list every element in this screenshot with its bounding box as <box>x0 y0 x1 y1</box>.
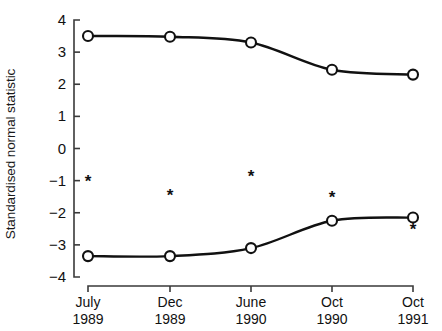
asterisk-annotation: * <box>167 186 174 205</box>
data-point-marker <box>165 251 175 261</box>
data-series-layer <box>83 31 418 261</box>
x-tick-label: Oct1991 <box>373 294 442 328</box>
x-tick-month: Oct <box>292 294 372 311</box>
x-tick-year: 1991 <box>373 311 442 328</box>
x-tick-label: July1989 <box>48 294 128 328</box>
y-tick-label: −4 <box>40 269 66 284</box>
x-tick-year: 1989 <box>130 311 210 328</box>
x-tick-year: 1989 <box>48 311 128 328</box>
data-point-marker <box>327 65 337 75</box>
x-tick-year: 1990 <box>292 311 372 328</box>
annotation-layer: ***** <box>85 167 417 239</box>
data-point-marker <box>165 32 175 42</box>
x-tick-month: Dec <box>130 294 210 311</box>
x-tick-label: June1990 <box>211 294 291 328</box>
x-tick-month: June <box>211 294 291 311</box>
y-tick-label: −2 <box>40 205 66 220</box>
asterisk-annotation: * <box>329 188 336 207</box>
x-tick-year: 1990 <box>211 311 291 328</box>
y-tick-label: −1 <box>40 173 66 188</box>
data-point-marker <box>246 37 256 47</box>
x-tick-month: Oct <box>373 294 442 311</box>
x-tick-month: July <box>48 294 128 311</box>
y-tick-label: −3 <box>40 237 66 252</box>
x-tick-label: Dec1989 <box>130 294 210 328</box>
y-tick-label: 2 <box>40 76 66 91</box>
axis-lines <box>74 20 413 292</box>
data-point-marker <box>408 70 418 80</box>
data-point-marker <box>327 216 337 226</box>
data-point-marker <box>83 251 93 261</box>
y-tick-label: 4 <box>40 12 66 27</box>
asterisk-annotation: * <box>410 220 417 239</box>
asterisk-annotation: * <box>85 172 92 191</box>
chart-figure: Standardised normal statistic ***** 4321… <box>0 0 442 331</box>
y-tick-label: 3 <box>40 44 66 59</box>
asterisk-annotation: * <box>248 167 255 186</box>
x-tick-label: Oct1990 <box>292 294 372 328</box>
plot-area: ***** <box>0 0 442 331</box>
y-tick-label: 1 <box>40 108 66 123</box>
y-tick-label: 0 <box>40 141 66 156</box>
data-point-marker <box>83 31 93 41</box>
data-point-marker <box>246 243 256 253</box>
